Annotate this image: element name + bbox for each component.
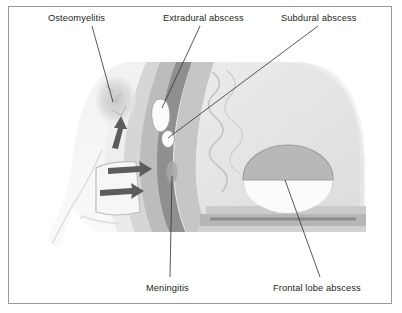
label-meningitis: Meningitis	[146, 283, 189, 293]
skull-base-band-3	[198, 226, 368, 236]
figure-page: Osteomyelitis Extradural abscess Subdura…	[0, 0, 402, 313]
label-extradural-abscess: Extradural abscess	[163, 13, 244, 23]
label-frontal-lobe-abscess: Frontal lobe abscess	[273, 283, 361, 293]
extradural-abscess-collection	[152, 99, 170, 132]
anatomy-illustration	[0, 0, 402, 313]
label-subdural-abscess: Subdural abscess	[281, 13, 357, 23]
frontal-lobe-abscess-cavity	[243, 145, 333, 213]
subdural-abscess-collection	[162, 131, 175, 148]
label-osteomyelitis: Osteomyelitis	[48, 13, 105, 23]
